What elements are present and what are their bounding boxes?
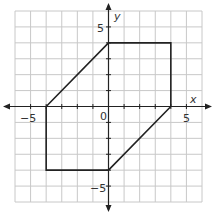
y-axis-label: y [113, 10, 121, 23]
coordinate-plane: x y −5 5 0 5 −5 [0, 0, 213, 213]
x-tick-neg5: −5 [20, 112, 36, 125]
x-axis-label: x [189, 93, 197, 106]
y-tick-neg5: −5 [90, 182, 106, 195]
y-tick-5: 5 [97, 22, 104, 35]
axes [3, 3, 212, 212]
origin-label: 0 [100, 110, 107, 123]
x-tick-5: 5 [183, 112, 190, 125]
